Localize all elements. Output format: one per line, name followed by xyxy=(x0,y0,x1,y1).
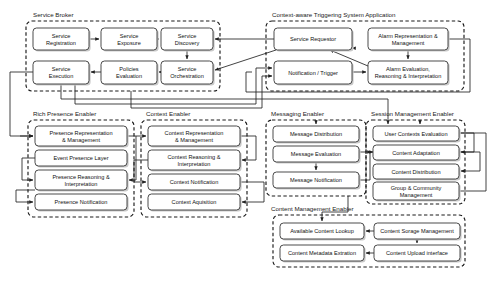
group-label-session_mgmt: Session Management Enabler xyxy=(371,110,454,117)
block-label-rp_event_layer: Event Presence Layer xyxy=(53,155,108,161)
block-label-cm_lookup: Available Content Lookup xyxy=(290,228,354,234)
block-cm_storage[interactable]: Content Sorage Management xyxy=(374,223,462,241)
block-ta_requestor[interactable]: Service Requestor xyxy=(274,28,354,52)
group-context_enabler: Context EnablerContext Representation& M… xyxy=(141,110,247,217)
block-label-me_notification: Message Notification xyxy=(290,177,342,183)
block-label-ta_requestor: Service Requestor xyxy=(290,36,336,42)
block-label-ce_acquisition: Context Aquisition xyxy=(172,199,217,205)
block-ta_alarm_repr[interactable]: Alarm Representation &Management xyxy=(368,28,450,52)
block-label-sm_user_contexts: User Contexts Evaluation xyxy=(384,131,447,137)
block-sb_orchestration[interactable]: ServiceOrchestration xyxy=(161,61,215,86)
block-sb_exposure[interactable]: ServiceExposure xyxy=(101,28,159,52)
block-sb_registration[interactable]: ServiceRegistration xyxy=(33,28,91,52)
block-ce_acquisition[interactable]: Context Aquisition xyxy=(148,194,242,212)
block-label-ta_notification: Notification / Trigger xyxy=(288,70,338,76)
group-label-service_broker: Service Broker xyxy=(33,11,74,18)
block-ce_notification[interactable]: Context Notification xyxy=(148,174,242,192)
block-sb_policies[interactable]: PoliciesEvaluation xyxy=(101,61,159,86)
group-label-context_enabler: Context Enabler xyxy=(146,110,190,117)
block-label-cm_upload: Content Upload interface xyxy=(386,250,448,256)
block-rp_repr[interactable]: Presence Representation& Management xyxy=(35,126,129,148)
block-rp_notification[interactable]: Presence Notification xyxy=(35,194,129,212)
block-sb_execution[interactable]: ServiceExecution xyxy=(33,61,91,86)
architecture-diagram: Service BrokerServiceRegistrationService… xyxy=(0,0,503,283)
group-rich_presence: Rich Presence EnablerPresence Representa… xyxy=(28,110,134,217)
group-label-content_mgmt: Content Management Enabler xyxy=(271,205,354,212)
block-label-sm_adaptation: Content Adaptation xyxy=(392,150,440,156)
block-label-sb_execution: ServiceExecution xyxy=(49,66,74,79)
block-sm_user_contexts[interactable]: User Contexts Evaluation xyxy=(373,126,461,143)
block-label-ce_notification: Context Notification xyxy=(170,179,219,185)
block-ce_repr[interactable]: Context Representation& Management xyxy=(148,126,242,148)
block-ta_notification[interactable]: Notification / Trigger xyxy=(274,61,354,86)
block-ta_alarm_eval[interactable]: Alarm Evaluation,Reasoning & Interpretat… xyxy=(368,61,450,86)
block-cm_upload[interactable]: Content Upload interface xyxy=(374,245,462,263)
block-cm_lookup[interactable]: Available Content Lookup xyxy=(280,223,366,241)
block-label-sb_discovery: ServiceDiscovery xyxy=(175,33,200,46)
block-label-me_distribution: Message Distribution xyxy=(290,131,342,137)
block-label-sm_distribution: Content Distribution xyxy=(391,169,440,175)
block-me_distribution[interactable]: Message Distribution xyxy=(273,126,361,144)
group-label-rich_presence: Rich Presence Enabler xyxy=(33,110,96,117)
block-cm_metadata[interactable]: Content Metadata Extration xyxy=(280,245,366,263)
block-label-cm_metadata: Content Metadata Extration xyxy=(288,250,356,256)
block-rp_reasoning[interactable]: Presence Reasoning &Interpretation xyxy=(35,170,129,192)
block-me_evaluation[interactable]: Message Evaluation xyxy=(273,146,361,164)
block-label-sb_policies: PoliciesEvaluation xyxy=(116,66,142,79)
block-me_notification[interactable]: Message Notification xyxy=(273,172,361,190)
block-label-me_evaluation: Message Evaluation xyxy=(291,151,341,157)
block-sm_adaptation[interactable]: Content Adaptation xyxy=(373,145,461,162)
block-label-sb_exposure: ServiceExposure xyxy=(117,33,141,46)
block-rp_event_layer[interactable]: Event Presence Layer xyxy=(35,150,129,168)
group-label-triggering_app: Context-aware Triggering System Applicat… xyxy=(272,11,396,18)
block-sm_distribution[interactable]: Content Distribution xyxy=(373,164,461,181)
block-sm_group[interactable]: Group & CommunityManagement xyxy=(373,182,461,202)
group-label-messaging_enabler: Messaging Enabler xyxy=(271,110,324,117)
block-label-rp_notification: Presence Notification xyxy=(55,199,108,205)
block-sb_discovery[interactable]: ServiceDiscovery xyxy=(161,28,215,52)
block-label-cm_storage: Content Sorage Management xyxy=(380,228,454,234)
block-ce_reasoning[interactable]: Context Reasoning &Interpretation xyxy=(148,150,242,172)
